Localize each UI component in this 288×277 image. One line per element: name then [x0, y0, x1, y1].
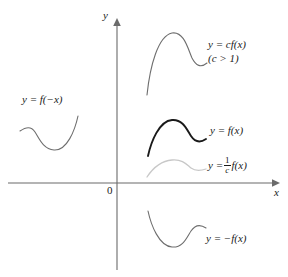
y-axis-label: y: [103, 9, 108, 21]
y-axis-arrowhead: [113, 18, 121, 26]
label-c-shrink-prefix: y =: [208, 159, 223, 171]
curve-c-stretch: [147, 33, 207, 95]
label-reflect-y: y = f(−x): [22, 93, 63, 107]
label-c-shrink: y =1cf(x): [208, 156, 247, 175]
label-reflect-x: y = −f(x): [206, 232, 247, 246]
curve-base-f: [148, 120, 206, 156]
fraction-one-over-c: 1c: [224, 156, 231, 175]
curve-c-shrink: [147, 160, 206, 177]
x-axis: [8, 179, 280, 187]
fraction-numerator: 1: [224, 156, 231, 165]
y-axis: [113, 18, 121, 270]
label-c-shrink-suffix: f(x): [232, 159, 247, 171]
transformations-figure: y x 0 y = cf(x) (c > 1) y = f(−x) y = f(…: [0, 0, 288, 277]
label-base-f: y = f(x): [210, 124, 243, 138]
origin-label: 0: [107, 184, 113, 196]
label-c-stretch: y = cf(x) (c > 1): [208, 38, 246, 66]
curve-reflect-x: [148, 211, 206, 247]
fraction-denominator: c: [224, 165, 231, 175]
label-c-stretch-line2: (c > 1): [208, 52, 246, 66]
x-axis-label: x: [274, 186, 279, 198]
curve-reflect-y: [20, 116, 78, 150]
label-c-stretch-line1: y = cf(x): [208, 38, 246, 50]
